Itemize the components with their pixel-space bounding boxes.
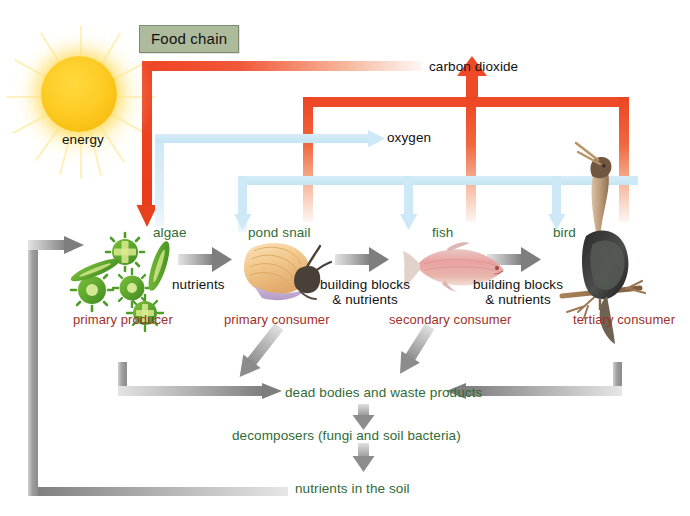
transfer-label-line2: & nutrients xyxy=(313,293,417,308)
role-label-secondary-consumer: secondary consumer xyxy=(389,313,511,327)
decomposition-label-nutrients-in-soil: nutrients in the soil xyxy=(295,482,410,497)
transfer-label-line2: & nutrients xyxy=(466,293,570,308)
role-label-tertiary-consumer: tertiary consumer xyxy=(573,313,675,327)
transfer-label-line1: building blocks xyxy=(466,278,570,293)
carbon-dioxide-arrow-system xyxy=(137,56,630,227)
organism-label-bird: bird xyxy=(553,226,576,241)
organism-label-algae: algae xyxy=(153,226,187,241)
organism-label-pond-snail: pond snail xyxy=(248,226,311,241)
energy-label: energy xyxy=(62,133,104,148)
carbon-dioxide-label: carbon dioxide xyxy=(429,60,518,75)
oxygen-label: oxygen xyxy=(387,131,431,146)
nutrient-recycling-loop-arrow xyxy=(28,236,288,496)
food-transfer-arrows xyxy=(178,247,541,272)
food-chain-diagram: Food chain energy carbon dioxide oxygen … xyxy=(0,0,690,516)
role-label-primary-consumer: primary consumer xyxy=(224,313,330,327)
diagram-title-chip: Food chain xyxy=(139,25,239,53)
decomposition-label-dead-bodies: dead bodies and waste products xyxy=(285,386,482,401)
sun-core xyxy=(41,56,117,132)
role-label-primary-producer: primary producer xyxy=(73,313,173,327)
transfer-label-building-blocks-2: building blocks & nutrients xyxy=(466,278,570,307)
transfer-label-line1: building blocks xyxy=(313,278,417,293)
sun-icon xyxy=(6,22,156,172)
organism-label-fish: fish xyxy=(432,226,453,241)
transfer-label-nutrients: nutrients xyxy=(172,278,225,293)
decomposition-label-decomposers: decomposers (fungi and soil bacteria) xyxy=(232,429,461,444)
transfer-label-building-blocks-1: building blocks & nutrients xyxy=(313,278,417,307)
